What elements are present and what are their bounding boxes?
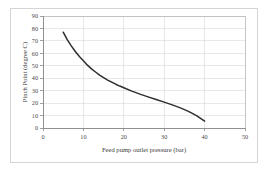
y-tick-label-80: 80: [32, 25, 38, 32]
x-tick-label-20: 20: [121, 133, 127, 140]
x-tick-label-50: 50: [242, 133, 248, 140]
x-tick-label-0: 0: [41, 133, 44, 140]
y-tick-label-90: 90: [32, 12, 38, 19]
x-tick-label-10: 10: [80, 133, 86, 140]
plot-background: [43, 16, 245, 128]
y-tick-label-20: 20: [32, 99, 38, 106]
y-axis: [40, 16, 43, 128]
x-tick-labels: 0 10 20 30 40 50: [41, 133, 248, 140]
chart-figure: 0 10 20 30 40 50 60 70 80 90 0 10 20 30 …: [0, 0, 270, 173]
x-tick-label-40: 40: [202, 133, 208, 140]
x-axis-title: Feed pump outlet pressure (bar): [102, 146, 186, 154]
y-tick-labels: 0 10 20 30 40 50 60 70 80 90: [32, 12, 38, 131]
y-tick-label-40: 40: [32, 74, 38, 81]
y-axis-title: Pinch Point (degree C): [21, 42, 29, 102]
x-tick-label-30: 30: [161, 133, 167, 140]
y-tick-label-50: 50: [32, 62, 38, 69]
y-tick-label-0: 0: [35, 124, 38, 131]
chart-plot-svg: 0 10 20 30 40 50 60 70 80 90 0 10 20 30 …: [0, 0, 270, 173]
y-tick-label-30: 30: [32, 87, 38, 94]
x-axis: [43, 128, 245, 131]
y-tick-label-10: 10: [32, 112, 38, 119]
y-tick-label-60: 60: [32, 50, 38, 57]
y-tick-label-70: 70: [32, 37, 38, 44]
